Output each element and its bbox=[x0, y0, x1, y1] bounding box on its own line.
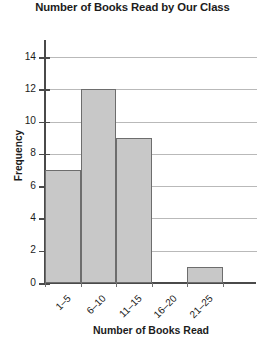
y-axis-tick-label: 12 bbox=[12, 84, 36, 94]
bar bbox=[187, 267, 223, 283]
x-axis-tick-mark bbox=[81, 283, 82, 287]
y-axis-tick-label: 10 bbox=[12, 116, 36, 126]
bar bbox=[81, 89, 117, 283]
y-axis-tick-label: 14 bbox=[12, 52, 36, 62]
y-axis-tick-label: 4 bbox=[12, 213, 36, 223]
y-axis-tick-label: 0 bbox=[12, 278, 36, 288]
x-axis-title: Number of Books Read bbox=[45, 324, 257, 336]
x-axis-tick-mark bbox=[116, 283, 117, 287]
x-axis-tick-mark bbox=[45, 283, 46, 287]
y-axis-tick-label: 8 bbox=[12, 148, 36, 158]
y-axis-tick-label: 6 bbox=[12, 181, 36, 191]
plot-area bbox=[45, 57, 257, 283]
y-axis-tick-label: 2 bbox=[12, 245, 36, 255]
chart-title: Number of Books Read by Our Class bbox=[0, 1, 265, 13]
x-axis-tick-mark bbox=[223, 283, 224, 287]
x-axis-tick-mark bbox=[152, 283, 153, 287]
bar bbox=[45, 170, 81, 283]
x-axis-tick-mark bbox=[187, 283, 188, 287]
bar bbox=[116, 138, 152, 283]
